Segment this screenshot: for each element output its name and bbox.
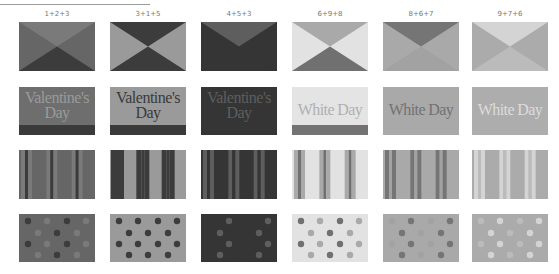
white-day-tile[interactable]: White Day [292, 87, 368, 135]
white-day-tile[interactable]: White Day [383, 87, 459, 135]
color-combo-label: 1+2+3 [19, 10, 95, 18]
valentines-day-tile[interactable]: Valentine'sDay [201, 87, 277, 135]
color-combo-label: 3+1+5 [110, 10, 186, 18]
valentines-day-text: Valentine'sDay [19, 90, 95, 120]
bottom-band [383, 125, 459, 135]
color-combo-label: 4+5+3 [201, 10, 277, 18]
polka-dot-tile[interactable] [201, 214, 277, 262]
color-combo-label: 8+6+7 [383, 10, 459, 18]
color-combo-label: 9+7+6 [472, 10, 548, 18]
envelope-pattern-tile[interactable] [472, 22, 548, 71]
envelope-pattern-tile[interactable] [201, 22, 277, 71]
polka-dot-tile[interactable] [110, 214, 186, 262]
white-day-tile[interactable]: White Day [472, 87, 548, 135]
valentines-day-text: Valentine'sDay [201, 90, 277, 120]
envelope-pattern-tile[interactable] [292, 22, 368, 71]
bottom-band [110, 125, 186, 135]
color-combo-label: 6+9+8 [292, 10, 368, 18]
bottom-band [292, 125, 368, 135]
header-divider [0, 4, 150, 5]
stripe-pattern-tile[interactable] [383, 150, 459, 199]
valentines-day-tile[interactable]: Valentine'sDay [19, 87, 95, 135]
valentines-day-text: Valentine'sDay [110, 90, 186, 120]
polka-dot-tile[interactable] [292, 214, 368, 262]
stripe-pattern-tile[interactable] [110, 150, 186, 199]
bottom-band [201, 125, 277, 135]
stripe-pattern-tile[interactable] [472, 150, 548, 199]
polka-dot-tile[interactable] [472, 214, 548, 262]
bottom-band [19, 125, 95, 135]
envelope-pattern-tile[interactable] [110, 22, 186, 71]
bottom-band [472, 125, 548, 135]
stripe-pattern-tile[interactable] [19, 150, 95, 199]
stripe-pattern-tile[interactable] [292, 150, 368, 199]
stripe-pattern-tile[interactable] [201, 150, 277, 199]
white-day-text: White Day [292, 102, 368, 117]
polka-dot-tile[interactable] [19, 214, 95, 262]
envelope-pattern-tile[interactable] [19, 22, 95, 71]
white-day-text: White Day [472, 102, 548, 117]
envelope-pattern-tile[interactable] [383, 22, 459, 71]
white-day-text: White Day [383, 102, 459, 117]
polka-dot-tile[interactable] [383, 214, 459, 262]
valentines-day-tile[interactable]: Valentine'sDay [110, 87, 186, 135]
